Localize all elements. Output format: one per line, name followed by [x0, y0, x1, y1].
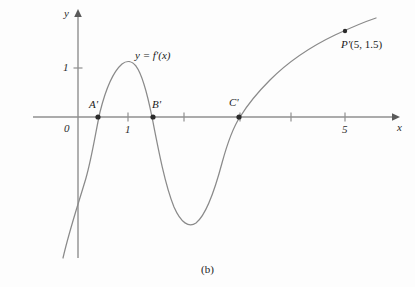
- point-coords-p-prime: (5, 1.5): [350, 38, 382, 50]
- origin-label: 0: [64, 123, 70, 134]
- point-label-a-prime: A': [89, 99, 98, 110]
- point-label-b-prime: B': [152, 99, 161, 110]
- curve-equation-label: y = f'(x): [135, 50, 170, 61]
- figure-container: y x 0 1 1 5 y = f'(x) A' B' C' P'(5, 1.5…: [0, 0, 415, 287]
- figure-caption: (b): [0, 263, 415, 275]
- x-axis: [33, 113, 400, 122]
- point-label-p-prime-group: P'(5, 1.5): [341, 35, 382, 51]
- point-label-p-prime: P': [341, 38, 350, 50]
- point-c-prime-dot: [236, 114, 241, 119]
- point-b-prime-dot: [150, 114, 155, 119]
- point-a-prime-dot: [95, 114, 100, 119]
- x-tick-label-5: 5: [342, 124, 348, 135]
- x-tick-label-1: 1: [125, 124, 131, 135]
- point-p-prime-dot: [343, 29, 347, 33]
- curve-f-prime: [63, 18, 376, 258]
- marked-points: [95, 29, 347, 120]
- x-axis-label: x: [397, 122, 402, 133]
- y-tick-label-1: 1: [63, 62, 69, 73]
- point-label-c-prime: C': [229, 97, 239, 108]
- y-axis: [74, 9, 83, 258]
- y-axis-label: y: [64, 8, 69, 19]
